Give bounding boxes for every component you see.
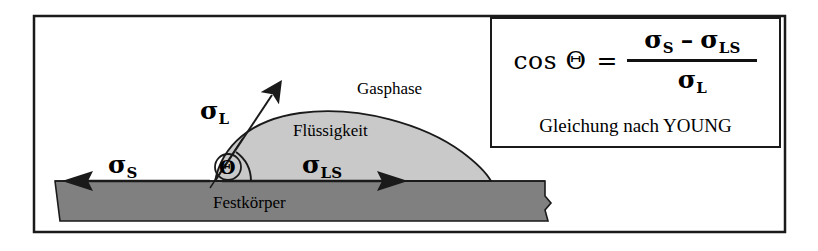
theta-label: Θ — [219, 158, 236, 177]
substrate-solid — [55, 181, 551, 221]
sigma-l-label: σL — [200, 98, 229, 127]
denominator-sigma-l-subscript: L — [696, 79, 707, 97]
sigma-ls-symbol: σ — [302, 150, 320, 179]
gas-phase-label: Gasphase — [357, 80, 422, 97]
denominator-sigma-l-symbol: σ — [678, 65, 696, 94]
numerator-sigma-ls-symbol: σ — [700, 25, 718, 54]
cos-theta-term: cos Θ — [514, 48, 593, 73]
equation-caption: Gleichung nach YOUNG — [492, 115, 779, 137]
numerator-sigma-s-subscript: S — [663, 39, 674, 57]
sigma-s-label: σS — [108, 152, 137, 181]
equation-row: cos Θ = σS–σLS σL — [492, 25, 779, 97]
sigma-s-symbol: σ — [108, 150, 126, 179]
sigma-l-subscript: L — [218, 110, 229, 128]
solid-phase-label: Festkörper — [213, 194, 286, 211]
numerator-sigma-s-symbol: σ — [644, 25, 662, 54]
young-equation-box: cos Θ = σS–σLS σL Gleichung nach YOUNG — [490, 17, 781, 148]
fraction: σS–σLS σL — [627, 25, 757, 97]
sigma-l-symbol: σ — [200, 96, 218, 125]
fraction-numerator: σS–σLS — [638, 25, 746, 59]
fraction-denominator: σL — [678, 62, 707, 97]
young-equation-figure: σL σS σLS Θ Gasphase Flüssigkeit Festkör… — [0, 0, 818, 251]
numerator-sigma-ls-subscript: LS — [719, 39, 741, 57]
liquid-phase-label: Flüssigkeit — [293, 122, 368, 139]
sigma-ls-label: σLS — [302, 152, 342, 181]
sigma-ls-subscript: LS — [320, 164, 342, 182]
sigma-s-subscript: S — [126, 164, 137, 182]
equals-sign: = — [592, 46, 627, 75]
minus-sign: – — [674, 25, 701, 54]
